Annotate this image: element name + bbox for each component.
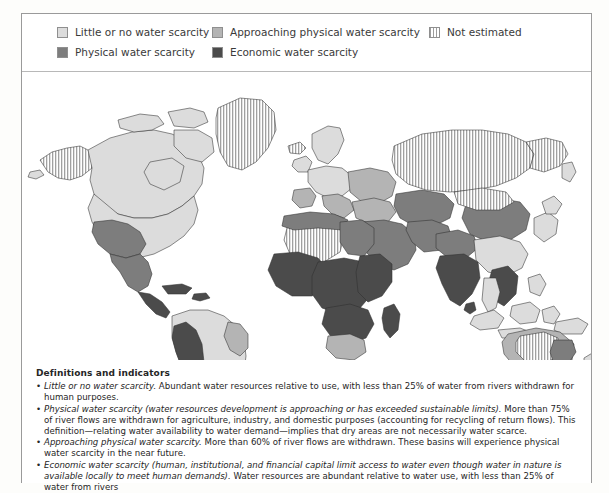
definitions-heading: Definitions and indicators [36,368,579,379]
region-sulawesi [542,306,560,324]
world-map[interactable]: .c-none{fill:#dcdcdc;} .c-appr{fill:#b4b… [22,72,591,360]
region-philippines [528,274,546,296]
region-borneo [510,302,540,324]
definition-bullet-economic: Economic water scarcity (human, institut… [36,460,579,493]
region-caribbean-cuba [162,284,192,294]
legend-item-approaching-physical[interactable]: Approaching physical water scarcity [212,27,420,38]
region-aleutians [28,170,44,179]
legend-label-not-estimated: Not estimated [447,27,522,38]
region-mongolia [454,188,514,210]
region-korea-japan [534,212,558,242]
region-sumatra [470,310,504,330]
region-kamchatka [562,162,576,182]
definition-bullet-physical: Physical water scarcity (water resources… [36,404,579,438]
legend-label-economic: Economic water scarcity [230,47,358,58]
region-mexico [110,254,152,292]
region-east-africa [356,254,392,302]
legend-label-little-or-no: Little or no water scarcity [75,27,209,38]
legend-swatch-physical [57,47,68,58]
region-madagascar [382,304,400,338]
region-japan-honshu [542,196,562,214]
region-western-europe [308,166,352,198]
region-arctic-islands-1 [118,114,164,132]
region-iceland [288,142,306,154]
definitions-section: Definitions and indicators Little or no … [22,360,591,493]
definition-term-physical: Physical water scarcity (water resources… [44,404,502,414]
legend-swatch-not-estimated [429,27,440,38]
region-greenland [216,98,276,170]
legend-swatch-little-or-no [57,27,68,38]
definition-bullet-approaching: Approaching physical water scarcity. Mor… [36,437,579,459]
legend-label-approaching-physical: Approaching physical water scarcity [230,27,420,38]
region-scandinavia [312,126,344,164]
region-arctic-islands-2 [168,108,208,128]
region-australia-southeast [550,340,576,360]
definition-term-approaching: Approaching physical water scarcity. [44,437,202,447]
definition-bullet-little-or-no: Little or no water scarcity. Abundant wa… [36,381,579,403]
region-india [436,254,480,306]
legend-swatch-approaching-physical [212,27,223,38]
legend-item-little-or-no[interactable]: Little or no water scarcity [57,27,209,38]
figure-container: Little or no water scarcity Physical wat… [21,13,592,483]
region-alaska [40,146,94,180]
region-caribbean-hispaniola [192,293,210,301]
world-map-svg: .c-none{fill:#dcdcdc;} .c-appr{fill:#b4b… [22,72,591,360]
legend-item-physical[interactable]: Physical water scarcity [57,47,195,58]
region-thailand-malaysia [482,278,500,312]
map-legend: Little or no water scarcity Physical wat… [22,14,591,72]
legend-swatch-economic [212,47,223,58]
region-new-zealand [584,352,591,360]
region-sri-lanka [464,302,476,314]
region-siberia [392,130,534,192]
region-iberia [292,188,316,208]
region-central-america [138,292,170,318]
legend-item-economic[interactable]: Economic water scarcity [212,47,358,58]
legend-item-not-estimated[interactable]: Not estimated [429,27,522,38]
definition-term-little-or-no: Little or no water scarcity. [44,381,156,391]
legend-label-physical: Physical water scarcity [75,47,195,58]
